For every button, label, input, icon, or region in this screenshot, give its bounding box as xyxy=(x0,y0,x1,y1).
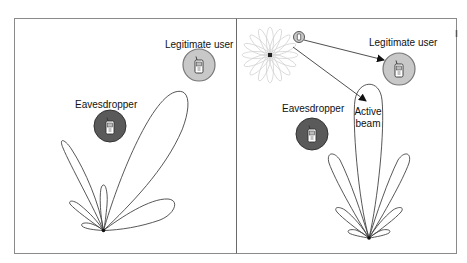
left-eavesdropper: Eavesdropper xyxy=(75,99,138,142)
left-eavesdropper-label: Eavesdropper xyxy=(75,99,138,110)
left-legitimate-user: Legitimate user xyxy=(165,39,234,81)
arrow-to-active-beam xyxy=(293,47,366,101)
signal-arrows xyxy=(293,40,384,101)
source-node xyxy=(294,32,305,43)
right-antenna-origin xyxy=(367,236,371,240)
active-beam-label-line1: Active xyxy=(354,106,382,117)
diagram-frame xyxy=(15,19,457,254)
left-antenna-origin xyxy=(102,229,106,233)
right-eavesdropper: Eavesdropper xyxy=(282,103,345,150)
right-legitimate-user-label: Legitimate user xyxy=(369,37,438,48)
omni-flower-pattern xyxy=(242,27,298,83)
left-legitimate-user-label: Legitimate user xyxy=(165,39,234,50)
left-panel: Legitimate user Eavesdropper xyxy=(61,39,234,232)
diagram-canvas: Legitimate user Eavesdropper xyxy=(0,0,467,263)
right-eavesdropper-label: Eavesdropper xyxy=(282,103,345,114)
right-legitimate-user: Legitimate user xyxy=(369,37,438,85)
left-beam-pattern xyxy=(61,91,188,230)
right-panel: Active beam Legitimate user Eavesdropper xyxy=(242,27,438,240)
active-beam-label-line2: beam xyxy=(355,118,380,129)
